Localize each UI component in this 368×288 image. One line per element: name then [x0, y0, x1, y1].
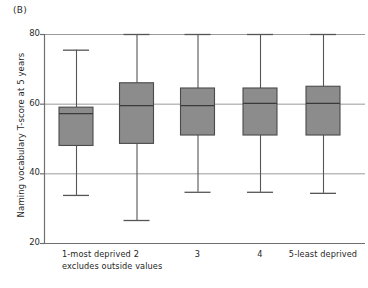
x-tick-label-4: 4 — [257, 249, 262, 259]
box-5-iqr-rect[interactable] — [306, 86, 340, 135]
box-2-iqr-rect[interactable] — [120, 83, 154, 144]
box-1-iqr-rect[interactable] — [59, 107, 93, 145]
x-tick-label-3: 3 — [195, 249, 200, 259]
box-plot-figure: (B) Naming vocabulary T-score at 5 years… — [0, 0, 368, 288]
x-tick-label-2: 2 — [134, 249, 139, 259]
x-tick-label-1: 1-most deprived — [62, 249, 131, 259]
box-4-iqr-rect[interactable] — [243, 88, 277, 135]
excludes-outside-values-note: excludes outside values — [62, 261, 162, 271]
plot-area — [0, 0, 368, 288]
box-3-iqr-rect[interactable] — [181, 88, 215, 135]
x-tick-label-5: 5-least deprived — [289, 249, 357, 259]
